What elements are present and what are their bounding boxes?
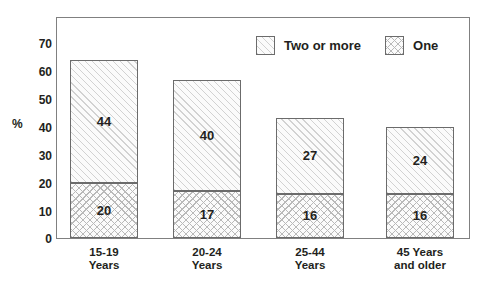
bar-segment-two-or-more[interactable]: 24 <box>386 127 454 194</box>
bar-group-20-24[interactable]: 40 17 <box>173 80 241 239</box>
y-tick-label-20: 20 <box>26 178 52 190</box>
x-tick-label-15-19: 15-19 Years <box>70 246 138 272</box>
y-tick-label-50: 50 <box>26 94 52 106</box>
bar-value-label-one: 17 <box>200 207 214 222</box>
legend-label-one: One <box>413 38 438 53</box>
stacked-bar-chart: % 70 60 50 40 30 20 10 0 44 20 40 17 <box>0 0 488 288</box>
crosshatch-swatch-icon <box>385 36 404 55</box>
bar-value-label-two-or-more: 40 <box>200 128 214 143</box>
x-tick-line-2: Years <box>70 259 138 272</box>
bar-value-label-two-or-more: 44 <box>97 114 111 129</box>
legend-item-one[interactable]: One <box>385 36 438 55</box>
y-axis-title: % <box>12 118 23 130</box>
bar-group-25-44[interactable]: 27 16 <box>276 118 344 238</box>
y-tick-label-30: 30 <box>26 150 52 162</box>
x-tick-line-1: 20-24 <box>173 246 241 259</box>
bar-value-label-one: 20 <box>97 203 111 218</box>
bar-segment-one[interactable]: 16 <box>276 194 344 239</box>
bar-value-label-one: 16 <box>413 208 427 223</box>
bar-segment-one[interactable]: 17 <box>173 191 241 238</box>
x-tick-label-45-and-older: 45 Years and older <box>376 246 464 272</box>
y-tick-label-10: 10 <box>26 206 52 218</box>
legend-label-two-or-more: Two or more <box>284 38 361 53</box>
legend: Two or more One <box>256 36 438 55</box>
x-tick-line-2: Years <box>276 259 344 272</box>
diagonal-hatch-swatch-icon <box>256 36 275 55</box>
legend-item-two-or-more[interactable]: Two or more <box>256 36 361 55</box>
x-tick-line-2: and older <box>376 259 464 272</box>
bar-segment-two-or-more[interactable]: 40 <box>173 80 241 191</box>
bar-segment-two-or-more[interactable]: 44 <box>70 60 138 183</box>
x-tick-label-20-24: 20-24 Years <box>173 246 241 272</box>
bar-segment-two-or-more[interactable]: 27 <box>276 118 344 193</box>
bar-segment-one[interactable]: 16 <box>386 194 454 239</box>
y-tick-label-0: 0 <box>26 233 52 245</box>
bar-group-45-and-older[interactable]: 24 16 <box>386 127 454 238</box>
y-tick-label-60: 60 <box>26 66 52 78</box>
x-tick-line-2: Years <box>173 259 241 272</box>
bar-segment-one[interactable]: 20 <box>70 183 138 239</box>
y-tick-label-40: 40 <box>26 122 52 134</box>
bar-value-label-two-or-more: 27 <box>303 148 317 163</box>
y-tick-label-70: 70 <box>26 38 52 50</box>
bar-value-label-one: 16 <box>303 208 317 223</box>
x-tick-line-1: 15-19 <box>70 246 138 259</box>
x-tick-line-1: 45 Years <box>376 246 464 259</box>
x-tick-line-1: 25-44 <box>276 246 344 259</box>
bar-group-15-19[interactable]: 44 20 <box>70 60 138 238</box>
x-tick-label-25-44: 25-44 Years <box>276 246 344 272</box>
bar-value-label-two-or-more: 24 <box>413 153 427 168</box>
